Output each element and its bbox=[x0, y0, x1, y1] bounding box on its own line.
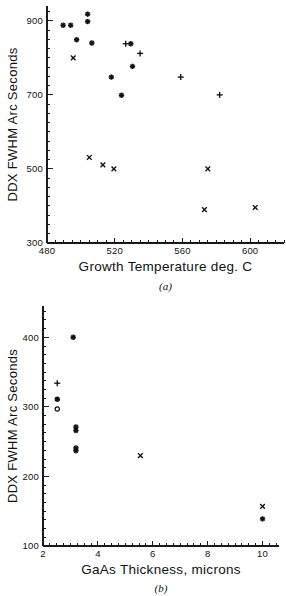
x-tick-label: 4 bbox=[95, 548, 100, 559]
y-axis-title: DDX FWHM Arc Seconds bbox=[5, 349, 20, 503]
y-tick-label: 300 bbox=[27, 237, 43, 248]
x-tick-label: 2 bbox=[40, 548, 45, 559]
x-tick-label: 8 bbox=[205, 548, 210, 559]
series-circle-open bbox=[55, 407, 59, 411]
y-tick-label: 700 bbox=[27, 89, 43, 100]
series-asterisk bbox=[60, 11, 135, 97]
data-series-group bbox=[54, 335, 265, 522]
series-plus bbox=[123, 41, 223, 98]
data-series-group bbox=[60, 11, 257, 212]
axes-group: 480520560600300500700900 bbox=[27, 6, 284, 256]
x-tick-label: 600 bbox=[242, 245, 258, 256]
y-tick-label: 900 bbox=[27, 15, 43, 26]
figure-panel-a: 480520560600300500700900Growth Temperatu… bbox=[0, 0, 286, 296]
series-cross bbox=[138, 453, 265, 508]
y-tick-label: 400 bbox=[23, 332, 39, 343]
y-tick-label: 100 bbox=[23, 540, 39, 551]
x-tick-label: 6 bbox=[150, 548, 155, 559]
major-ticks: 246810100200300400 bbox=[23, 332, 268, 559]
data-point-circle-open bbox=[55, 407, 59, 411]
series-cross bbox=[71, 56, 258, 213]
data-point-circle-filled bbox=[55, 397, 59, 401]
scatter-plot-b: 246810100200300400GaAs Thickness, micron… bbox=[0, 296, 286, 596]
x-tick-label: 10 bbox=[257, 548, 268, 559]
series-asterisk bbox=[70, 335, 265, 522]
y-axis-title: DDX FWHM Arc Seconds bbox=[5, 47, 20, 201]
x-axis-title: Growth Temperature deg. C bbox=[79, 259, 253, 274]
major-ticks: 480520560600300500700900 bbox=[27, 15, 259, 255]
panel-caption: (a) bbox=[159, 280, 172, 293]
y-tick-label: 500 bbox=[27, 163, 43, 174]
series-plus bbox=[54, 380, 60, 386]
y-tick-label: 300 bbox=[23, 401, 39, 412]
x-tick-label: 520 bbox=[106, 245, 122, 256]
scatter-plot-a: 480520560600300500700900Growth Temperatu… bbox=[0, 0, 286, 296]
x-tick-label: 560 bbox=[174, 245, 190, 256]
figure-panel-b: 246810100200300400GaAs Thickness, micron… bbox=[0, 296, 286, 596]
x-axis-title: GaAs Thickness, microns bbox=[81, 562, 241, 577]
y-tick-label: 200 bbox=[23, 471, 39, 482]
panel-caption: (b) bbox=[155, 582, 168, 595]
minor-ticks bbox=[47, 12, 284, 243]
series-circle-filled bbox=[55, 397, 59, 401]
axes-group: 246810100200300400 bbox=[23, 306, 279, 559]
